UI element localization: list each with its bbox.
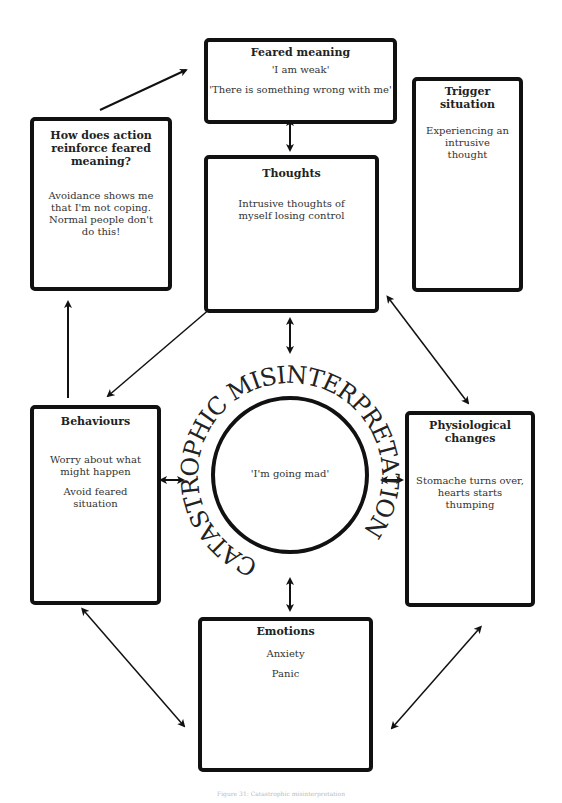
behaviours-line-2: Avoid feared situation bbox=[40, 486, 151, 510]
arrow-thoughts-physiological bbox=[390, 300, 468, 403]
emotions-title: Emotions bbox=[202, 625, 369, 638]
physiological-line-1: Stomache turns over, hearts starts thump… bbox=[415, 475, 525, 511]
arrow-reinforce-to-feared bbox=[100, 70, 186, 110]
feared-meaning-title: Feared meaning bbox=[208, 46, 393, 59]
trigger-situation-title: Trigger situation bbox=[416, 85, 519, 111]
arrow-behaviours-emotions bbox=[85, 612, 184, 726]
physiological-title: Physiological changes bbox=[409, 419, 531, 445]
thoughts-line-1: Intrusive thoughts of myself losing cont… bbox=[228, 198, 355, 222]
physiological-box: Physiological changes Stomache turns ove… bbox=[405, 411, 535, 607]
reinforce-title: How does action reinforce feared meaning… bbox=[34, 129, 168, 168]
feared-meaning-box: Feared meaning 'I am weak' 'There is som… bbox=[204, 38, 397, 124]
trigger-situation-line-1: Experiencing an intrusive thought bbox=[424, 125, 511, 161]
behaviours-line-1: Worry about what might happen bbox=[40, 454, 151, 478]
behaviours-title: Behaviours bbox=[34, 415, 157, 428]
emotions-line-1: Anxiety bbox=[202, 648, 369, 660]
thoughts-box: Thoughts Intrusive thoughts of myself lo… bbox=[204, 155, 379, 313]
arrow-physiological-emotions bbox=[392, 630, 478, 728]
reinforce-line-1: Avoidance shows me that I'm not coping. … bbox=[48, 190, 154, 238]
trigger-situation-box: Trigger situation Experiencing an intrus… bbox=[412, 77, 523, 292]
thoughts-title: Thoughts bbox=[208, 167, 375, 180]
center-inner-text: 'I'm going mad' bbox=[230, 468, 350, 479]
emotions-box: Emotions Anxiety Panic bbox=[198, 617, 373, 772]
arrow-thoughts-behaviours bbox=[108, 302, 218, 396]
reinforce-box: How does action reinforce feared meaning… bbox=[30, 117, 172, 291]
emotions-line-2: Panic bbox=[202, 668, 369, 680]
feared-meaning-line-1: 'I am weak' bbox=[208, 64, 393, 76]
figure-caption: Figure 31: Catastrophic misinterpretatio… bbox=[0, 790, 562, 797]
behaviours-box: Behaviours Worry about what might happen… bbox=[30, 405, 161, 605]
feared-meaning-line-2: 'There is something wrong with me' bbox=[208, 84, 393, 96]
